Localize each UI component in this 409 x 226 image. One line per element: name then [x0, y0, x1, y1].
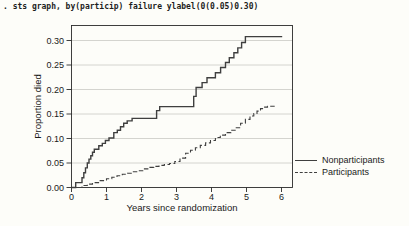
axis-ticks	[67, 41, 282, 193]
legend: Nonparticipants Participants	[295, 155, 385, 177]
y-tick-label: 0.10	[46, 134, 64, 144]
y-tick-label: 0.05	[46, 158, 64, 168]
y-axis-title: Proportion died	[31, 22, 44, 192]
y-tick-label: 0.20	[46, 85, 64, 95]
solid-line-sample	[295, 160, 317, 161]
legend-label-nonparticipants: Nonparticipants	[322, 155, 385, 165]
y-tick-label: 0.30	[46, 36, 64, 46]
curve-nonparticipants	[72, 37, 283, 188]
x-axis-title: Years since randomization	[72, 201, 292, 214]
y-tick-label: 0.25	[46, 60, 64, 70]
dashed-line-sample	[295, 172, 317, 173]
y-tick-label: 0.15	[46, 109, 64, 119]
legend-item-participants: Participants	[295, 167, 385, 177]
gridlines	[72, 41, 293, 164]
survival-chart: 0.000.050.100.150.200.250.300123456	[0, 0, 409, 226]
survival-curves	[72, 37, 283, 188]
stata-graph-screenshot: . sts graph, by(particip) failure ylabel…	[0, 0, 409, 226]
curve-participants	[72, 106, 276, 187]
legend-label-participants: Participants	[322, 167, 369, 177]
legend-item-nonparticipants: Nonparticipants	[295, 155, 385, 165]
y-tick-label: 0.00	[46, 183, 64, 193]
